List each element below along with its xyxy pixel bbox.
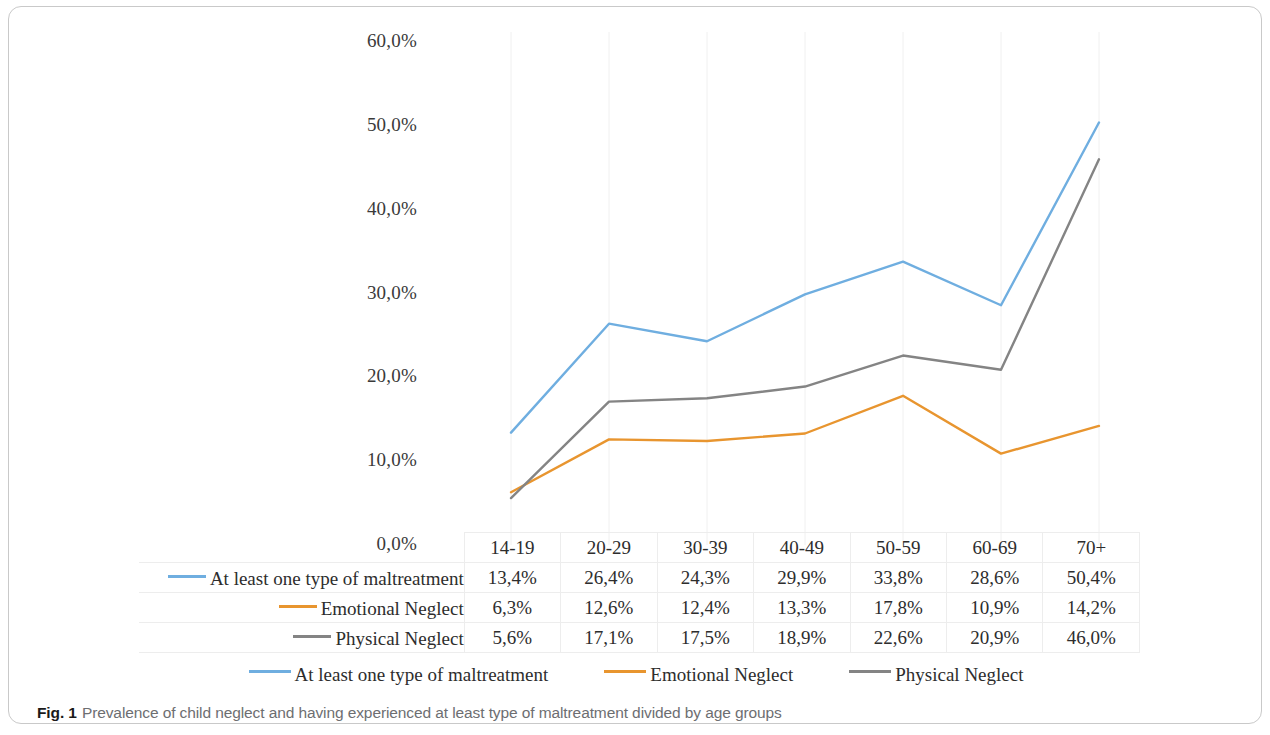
table-column-header: 40-49 (754, 533, 850, 563)
series-color-swatch-icon (293, 627, 331, 649)
figure-caption: Fig. 1Prevalence of child neglect and ha… (37, 704, 782, 722)
table-column-header: 20-29 (561, 533, 657, 563)
table-value-cell: 22,6% (850, 623, 946, 653)
table-corner-cell (139, 533, 464, 563)
table-value-cell: 12,6% (561, 593, 657, 623)
table-value-cell: 20,9% (947, 623, 1043, 653)
table-row: Emotional Neglect6,3%12,6%12,4%13,3%17,8… (139, 593, 1140, 623)
table-value-cell: 33,8% (850, 563, 946, 593)
legend-item-label: At least one type of maltreatment (295, 664, 549, 685)
y-axis-tick-label: 30,0% (339, 282, 417, 304)
table-series-label-cell: Physical Neglect (139, 623, 464, 653)
table-value-cell: 17,5% (657, 623, 753, 653)
table-value-cell: 26,4% (561, 563, 657, 593)
y-axis-tick-label: 60,0% (339, 30, 417, 52)
legend-item: Emotional Neglect (604, 662, 793, 686)
table-value-cell: 50,4% (1043, 563, 1140, 593)
table-column-header: 70+ (1043, 533, 1140, 563)
legend-item-label: Physical Neglect (895, 664, 1023, 685)
legend-item: Physical Neglect (849, 662, 1023, 686)
table-value-cell: 18,9% (754, 623, 850, 653)
table-header-row: 14-1920-2930-3940-4950-5960-6970+ (139, 533, 1140, 563)
legend-color-swatch-icon (849, 670, 891, 673)
table-value-cell: 17,8% (850, 593, 946, 623)
y-axis-tick-label: 10,0% (339, 449, 417, 471)
legend-item-label: Emotional Neglect (650, 664, 793, 685)
table-value-cell: 6,3% (464, 593, 560, 623)
table-value-cell: 5,6% (464, 623, 560, 653)
table-value-cell: 46,0% (1043, 623, 1140, 653)
table-column-header: 50-59 (850, 533, 946, 563)
table-row: At least one type of maltreatment13,4%26… (139, 563, 1140, 593)
legend-color-swatch-icon (249, 670, 291, 673)
series-name-label: Physical Neglect (335, 627, 463, 648)
table-row: Physical Neglect5,6%17,1%17,5%18,9%22,6%… (139, 623, 1140, 653)
table-series-label-cell: At least one type of maltreatment (139, 563, 464, 593)
table-value-cell: 13,4% (464, 563, 560, 593)
y-axis-tick-label: 20,0% (339, 365, 417, 387)
table-value-cell: 24,3% (657, 563, 753, 593)
table-series-label-cell: Emotional Neglect (139, 593, 464, 623)
table-value-cell: 12,4% (657, 593, 753, 623)
figure-caption-label: Fig. 1 (37, 704, 77, 721)
chart-data-table: 14-1920-2930-3940-4950-5960-6970+At leas… (139, 532, 1140, 653)
table-column-header: 30-39 (657, 533, 753, 563)
table-column-header: 60-69 (947, 533, 1043, 563)
series-color-swatch-icon (279, 597, 317, 619)
table-value-cell: 28,6% (947, 563, 1043, 593)
table-value-cell: 17,1% (561, 623, 657, 653)
series-name-label: At least one type of maltreatment (210, 567, 464, 588)
table-value-cell: 14,2% (1043, 593, 1140, 623)
chart-legend: At least one type of maltreatmentEmotion… (9, 662, 1263, 686)
table-column-header: 14-19 (464, 533, 560, 563)
table-value-cell: 10,9% (947, 593, 1043, 623)
y-axis-tick-label: 50,0% (339, 114, 417, 136)
figure-card: 0,0%10,0%20,0%30,0%40,0%50,0%60,0% 14-19… (8, 6, 1262, 724)
table-value-cell: 29,9% (754, 563, 850, 593)
y-axis-tick-label: 40,0% (339, 198, 417, 220)
figure-caption-text: Prevalence of child neglect and having e… (82, 704, 782, 721)
series-name-label: Emotional Neglect (321, 597, 464, 618)
legend-color-swatch-icon (604, 670, 646, 673)
series-color-swatch-icon (168, 567, 206, 589)
table-value-cell: 13,3% (754, 593, 850, 623)
legend-item: At least one type of maltreatment (249, 662, 549, 686)
